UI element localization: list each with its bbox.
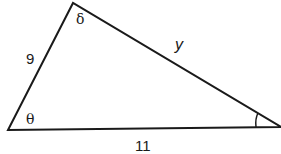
side-label-hypotenuse: y (174, 36, 184, 53)
side-label-left: 9 (26, 50, 34, 67)
angle-arc-right (256, 113, 258, 127)
triangle (8, 3, 281, 130)
triangle-diagram: δ θ 9 y 11 (0, 0, 281, 154)
angle-label-delta: δ (76, 11, 84, 27)
side-label-bottom: 11 (135, 137, 151, 154)
angle-label-theta: θ (26, 111, 34, 127)
